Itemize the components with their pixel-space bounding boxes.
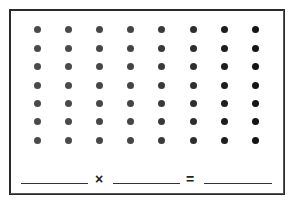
array-dot (127, 137, 134, 144)
array-dot (190, 26, 197, 33)
array-dot (252, 45, 259, 52)
array-dot (190, 100, 197, 107)
array-dot (190, 45, 197, 52)
array-dot (221, 45, 228, 52)
array-dot (252, 118, 259, 125)
array-dot (252, 137, 259, 144)
array-dot (221, 82, 228, 89)
times-symbol: × (95, 171, 103, 187)
array-dot (221, 63, 228, 70)
array-dot (127, 45, 134, 52)
array-dot (190, 118, 197, 125)
array-dot (96, 137, 103, 144)
array-dot (65, 137, 72, 144)
array-dot (34, 82, 41, 89)
array-dot (127, 82, 134, 89)
array-dot (221, 26, 228, 33)
array-dot (221, 137, 228, 144)
array-dot (221, 118, 228, 125)
array-dot (96, 45, 103, 52)
border-shadow-right (283, 10, 284, 194)
worksheet-border (9, 9, 285, 195)
array-dot (65, 100, 72, 107)
array-dot (252, 82, 259, 89)
border-shadow-bottom (10, 193, 284, 194)
array-worksheet: × = (0, 0, 298, 200)
array-dot (34, 45, 41, 52)
equals-symbol: = (186, 171, 194, 187)
array-dot (190, 82, 197, 89)
factor-1-blank[interactable] (21, 183, 88, 184)
array-dot (158, 82, 165, 89)
array-dot (190, 137, 197, 144)
array-dot (252, 26, 259, 33)
array-dot (34, 137, 41, 144)
array-dot (221, 100, 228, 107)
array-dot (65, 45, 72, 52)
array-dot (252, 100, 259, 107)
array-dot (190, 63, 197, 70)
factor-2-blank[interactable] (113, 183, 180, 184)
array-dot (96, 82, 103, 89)
array-dot (65, 82, 72, 89)
product-blank[interactable] (204, 183, 272, 184)
array-dot (252, 63, 259, 70)
array-dot (34, 100, 41, 107)
